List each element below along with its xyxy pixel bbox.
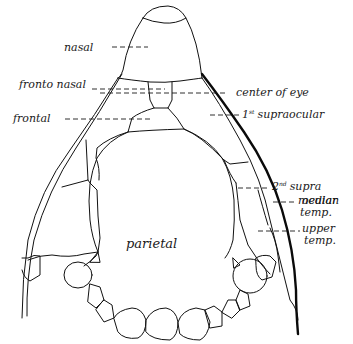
label-nasal: nasal — [64, 41, 94, 54]
frontal-scale — [128, 108, 184, 132]
label-upper-temp-line2: temp. — [304, 234, 336, 247]
label-fronto-nasal: fronto nasal — [18, 78, 86, 91]
label-frontal: frontal — [12, 112, 51, 125]
label-parietal: parietal — [126, 236, 177, 251]
right-side-scales — [184, 129, 280, 280]
head-scales-diagram: nasal fronto nasal frontal center of eye… — [0, 0, 353, 344]
left-lateral-edge — [22, 74, 122, 318]
label-first-supraocular: 1stsupraocular — [242, 108, 325, 121]
label-center-of-eye: center of eye — [236, 86, 309, 99]
posterior-occipital-scales — [64, 252, 267, 340]
label-second-supraocular: 2ndsupra — [271, 180, 321, 193]
labels: nasal fronto nasal frontal center of eye… — [12, 41, 339, 251]
diagram-canvas: nasal fronto nasal frontal center of eye… — [0, 0, 353, 344]
nasal-scale — [118, 6, 202, 78]
label-median-temp-line2: temp. — [300, 206, 332, 219]
left-side-scales — [22, 132, 128, 281]
label-leader-lines — [65, 47, 300, 231]
